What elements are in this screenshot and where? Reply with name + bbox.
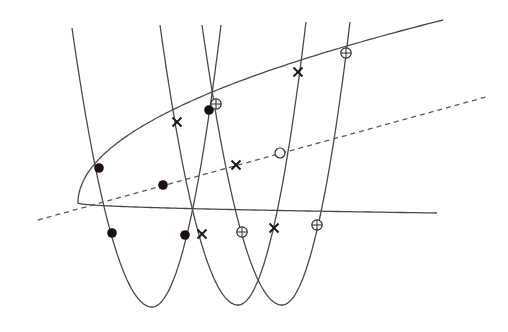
vertical-parabola-p1 <box>72 25 221 307</box>
curves-layer <box>38 20 486 307</box>
filled-dot-marker <box>158 180 168 190</box>
parabola-diagram <box>0 0 508 332</box>
circled-plus-marker <box>341 48 351 58</box>
cross-marker <box>173 118 182 127</box>
filled-dot-marker <box>107 228 117 238</box>
filled-dot-marker <box>94 163 104 173</box>
cross-marker <box>294 68 303 77</box>
circled-plus-marker <box>211 99 221 109</box>
vertical-parabola-p3 <box>202 22 350 305</box>
diagram-canvas <box>0 0 508 332</box>
vertical-parabola-p2 <box>160 22 306 305</box>
circled-plus-marker <box>312 220 322 230</box>
circled-plus-marker <box>237 227 247 237</box>
dashed-axis-line <box>38 97 486 220</box>
sideways-parabola <box>78 20 443 213</box>
filled-dot-marker <box>180 230 190 240</box>
open-circle-marker <box>275 148 285 158</box>
